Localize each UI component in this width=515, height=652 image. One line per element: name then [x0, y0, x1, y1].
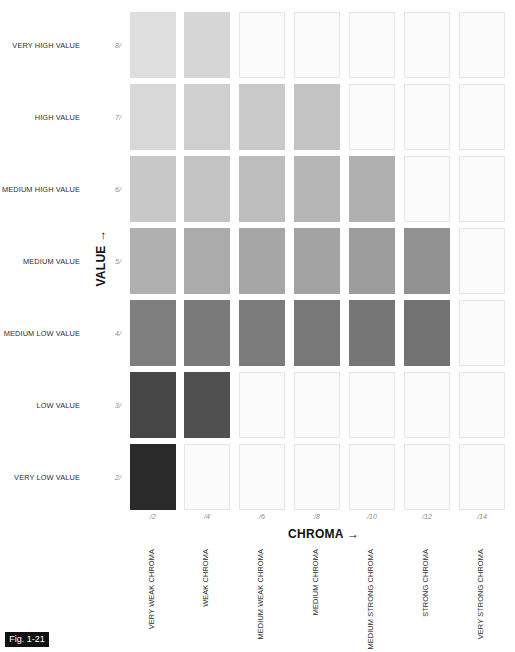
figure-label: Fig. 1-21 [5, 632, 49, 647]
color-swatch [184, 84, 230, 150]
row-value-number: 8/ [115, 42, 121, 49]
empty-swatch [459, 300, 505, 366]
row-label: MEDIUM VALUE [23, 257, 80, 266]
empty-swatch [404, 12, 450, 78]
empty-swatch [349, 372, 395, 438]
color-swatch [130, 84, 176, 150]
color-swatch [130, 228, 176, 294]
color-swatch [130, 300, 176, 366]
row-label: HIGH VALUE [35, 113, 80, 122]
column-label: MEDIUM STRONG CHROMA [366, 549, 375, 650]
empty-swatch [294, 372, 340, 438]
empty-swatch [459, 12, 505, 78]
empty-swatch [239, 444, 285, 510]
row-value-number: 6/ [115, 186, 121, 193]
empty-swatch [459, 444, 505, 510]
row-value-number: 7/ [115, 114, 121, 121]
color-swatch [184, 372, 230, 438]
column-chroma-number: /2 [130, 513, 176, 520]
color-swatch [404, 228, 450, 294]
column-label: WEAK CHROMA [201, 549, 210, 607]
color-swatch [239, 156, 285, 222]
column-chroma-number: /12 [404, 513, 450, 520]
color-swatch [184, 12, 230, 78]
color-swatch [239, 84, 285, 150]
color-swatch [184, 156, 230, 222]
column-chroma-number: /4 [184, 513, 230, 520]
empty-swatch [404, 84, 450, 150]
empty-swatch [459, 372, 505, 438]
color-swatch [349, 228, 395, 294]
empty-swatch [239, 372, 285, 438]
empty-swatch [459, 84, 505, 150]
empty-swatch [349, 12, 395, 78]
empty-swatch [294, 444, 340, 510]
color-swatch [130, 12, 176, 78]
row-label: VERY HIGH VALUE [12, 41, 80, 50]
row-value-number: 5/ [115, 258, 121, 265]
color-swatch [404, 300, 450, 366]
empty-swatch [349, 84, 395, 150]
row-label: MEDIUM LOW VALUE [4, 329, 80, 338]
column-chroma-number: /6 [239, 513, 285, 520]
row-label: VERY LOW VALUE [14, 473, 80, 482]
column-label: STRONG CHROMA [421, 549, 430, 617]
color-swatch [294, 84, 340, 150]
color-swatch [349, 300, 395, 366]
color-swatch [130, 444, 176, 510]
row-value-number: 3/ [115, 402, 121, 409]
value-axis-label: VALUE → [94, 229, 108, 286]
row-label: MEDIUM HIGH VALUE [2, 185, 80, 194]
row-label: LOW VALUE [37, 401, 80, 410]
chroma-axis-label: CHROMA → [288, 527, 359, 541]
empty-swatch [459, 228, 505, 294]
empty-swatch [294, 12, 340, 78]
color-swatch [130, 372, 176, 438]
color-swatch [184, 300, 230, 366]
column-chroma-number: /8 [294, 513, 340, 520]
color-swatch [130, 156, 176, 222]
column-label: VERY STRONG CHROMA [476, 549, 485, 639]
color-swatch [184, 228, 230, 294]
empty-swatch [184, 444, 230, 510]
color-swatch [239, 300, 285, 366]
color-swatch [294, 300, 340, 366]
color-swatch [294, 228, 340, 294]
row-value-number: 2/ [115, 474, 121, 481]
column-label: VERY WEAK CHROMA [147, 549, 156, 629]
empty-swatch [459, 156, 505, 222]
column-label: MEDIUM CHROMA [311, 549, 320, 615]
row-value-number: 4/ [115, 330, 121, 337]
color-swatch [349, 156, 395, 222]
column-label: MEDIUM WEAK CHROMA [256, 549, 265, 640]
empty-swatch [404, 444, 450, 510]
column-chroma-number: /14 [459, 513, 505, 520]
color-swatch [294, 156, 340, 222]
column-chroma-number: /10 [349, 513, 395, 520]
empty-swatch [404, 372, 450, 438]
empty-swatch [404, 156, 450, 222]
empty-swatch [349, 444, 395, 510]
color-swatch [239, 228, 285, 294]
empty-swatch [239, 12, 285, 78]
